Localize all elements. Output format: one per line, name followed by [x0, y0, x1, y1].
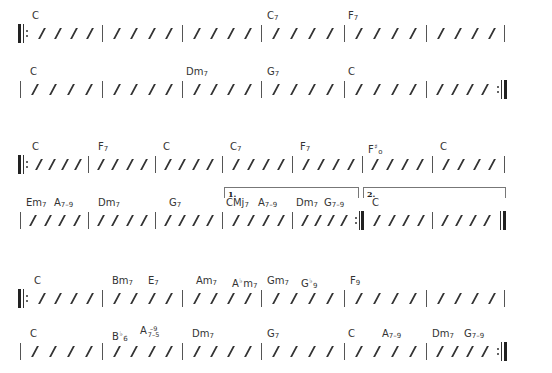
chord-symbol: C — [372, 197, 379, 209]
measure: Dm7 G7–9 — [294, 197, 354, 237]
chord-line: C Dm7 G7 C — [0, 66, 552, 106]
chord-symbol: E7 — [148, 275, 159, 289]
repeat-start-thin-barline — [23, 155, 24, 174]
repeat-start-thin-barline — [23, 24, 24, 43]
beat-slashes — [428, 344, 496, 358]
chord-symbol: Dm7 — [432, 328, 454, 342]
beat-slashes — [90, 213, 155, 227]
chord-symbol: F7 — [300, 141, 310, 155]
beat-slashes — [28, 157, 88, 171]
beat-slashes — [224, 157, 292, 171]
chord-symbol: A♭m7 — [232, 275, 257, 292]
measure: G7 — [263, 328, 343, 368]
chord-symbol: Em7 — [26, 197, 47, 211]
measure: C — [22, 66, 102, 106]
beat-slashes — [364, 157, 431, 171]
measure: C — [157, 141, 221, 181]
barline — [504, 156, 505, 173]
measure: B♭6 A –97–5 — [104, 328, 182, 368]
chord-symbol: G7–9 — [324, 197, 344, 211]
chord-symbol: A7–9 — [258, 197, 277, 211]
beat-slashes — [263, 344, 343, 358]
beat-slashes — [22, 82, 102, 96]
measure: Gm7 G♭9 — [263, 275, 343, 315]
repeat-start-thick-barline — [18, 24, 21, 43]
chord-symbol: F♯o — [368, 141, 382, 158]
beat-slashes — [104, 26, 182, 40]
repeat-dots — [26, 293, 29, 305]
beat-slashes — [22, 344, 102, 358]
beat-slashes — [22, 213, 88, 227]
measure: C7 — [263, 10, 343, 50]
measure: C A7–9 — [346, 328, 426, 368]
measure: Dm7 — [184, 66, 260, 106]
beat-slashes — [30, 26, 102, 40]
measure: C — [30, 275, 102, 315]
measure — [428, 66, 496, 106]
repeat-start-thick-barline — [18, 289, 21, 308]
barline — [504, 290, 505, 307]
beat-slashes — [346, 82, 426, 96]
beat-slashes — [434, 213, 498, 227]
chord-symbol: G♭9 — [301, 275, 318, 292]
chord-symbol: A7–9 — [54, 197, 73, 211]
measure: C7 — [224, 141, 292, 181]
beat-slashes — [263, 291, 343, 305]
repeat-end-thin-barline — [501, 342, 502, 361]
chord-symbol: F7 — [98, 141, 108, 155]
beat-slashes — [294, 157, 362, 171]
chord-symbol: C — [348, 66, 355, 78]
measure: CMj7 A7–9 — [224, 197, 292, 237]
chord-line: C F7 C C7 F7 F♯o C — [0, 141, 552, 181]
chord-symbol: C — [30, 328, 37, 340]
final-thick-barline — [503, 211, 506, 230]
repeat-dots — [497, 346, 500, 358]
repeat-end-thick-barline — [361, 211, 364, 230]
chord-symbol: Dm7 — [98, 197, 120, 211]
beat-slashes — [294, 213, 354, 227]
chord-symbol: G7 — [267, 66, 279, 80]
chord-symbol: G7 — [169, 197, 181, 211]
beat-slashes — [428, 26, 504, 40]
chord-symbol: B♭6 — [112, 328, 128, 345]
repeat-start-thick-barline — [18, 155, 21, 174]
beat-slashes — [104, 82, 182, 96]
repeat-start-thin-barline — [23, 289, 24, 308]
beat-slashes — [90, 157, 155, 171]
measure: F7 — [294, 141, 362, 181]
beat-slashes — [184, 26, 260, 40]
measure — [434, 197, 498, 237]
chord-line: C C7 F7 — [0, 10, 552, 50]
measure: Bm7 E7 — [104, 275, 182, 315]
measure: C — [434, 141, 504, 181]
chord-symbol: C7 — [267, 10, 278, 24]
beat-slashes — [224, 213, 292, 227]
chord-symbol: F7 — [348, 10, 358, 24]
final-thin-barline — [500, 211, 501, 230]
chord-line: Em7 A7–9 Dm7 G7 CMj7 A7–9 Dm7 G7–9 — [0, 197, 552, 237]
chord-symbol: C — [163, 141, 170, 153]
repeat-dots — [26, 28, 29, 40]
beat-slashes — [104, 344, 182, 358]
measure: F9 — [346, 275, 426, 315]
measure — [104, 10, 182, 50]
measure — [104, 66, 182, 106]
chord-symbol: Gm7 — [267, 275, 289, 289]
beat-slashes — [434, 157, 504, 171]
beat-slashes — [346, 291, 426, 305]
beat-slashes — [346, 344, 426, 358]
measure: C — [366, 197, 432, 237]
measure: G7 — [263, 66, 343, 106]
repeat-end-thin-barline — [501, 80, 502, 99]
repeat-end-thin-barline — [359, 211, 360, 230]
beat-slashes — [30, 291, 102, 305]
repeat-dots — [355, 215, 358, 227]
beat-slashes — [346, 26, 426, 40]
beat-slashes — [263, 82, 343, 96]
measure — [428, 275, 504, 315]
chord-symbol: Dm7 — [186, 66, 208, 80]
chord-symbol: F9 — [350, 275, 360, 289]
measure: Dm7 G7–9 — [428, 328, 496, 368]
chord-symbol: C — [32, 141, 39, 153]
beat-slashes — [428, 82, 496, 96]
